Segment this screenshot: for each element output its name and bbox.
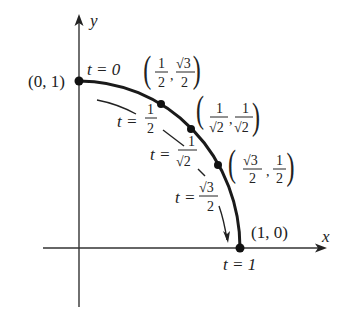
svg-text:t =: t = bbox=[150, 145, 170, 164]
svg-text:√3: √3 bbox=[243, 153, 258, 168]
svg-text:1: 1 bbox=[242, 101, 249, 116]
svg-text:,: , bbox=[170, 68, 174, 83]
point-t1 bbox=[236, 244, 245, 253]
svg-text:2: 2 bbox=[276, 171, 283, 186]
svg-text:√3: √3 bbox=[176, 56, 191, 71]
svg-text:√2: √2 bbox=[209, 120, 224, 135]
svg-text:√2: √2 bbox=[176, 154, 191, 169]
svg-text:,: , bbox=[266, 164, 270, 179]
svg-text:2: 2 bbox=[158, 75, 165, 90]
parametric-quarter-circle-diagram: y x (0, 1) t = 0 ( 1 2 , √3 2 ) ( 1 √2 ,… bbox=[0, 0, 356, 323]
svg-text:2: 2 bbox=[147, 121, 154, 136]
svg-text:t =: t = bbox=[175, 188, 195, 207]
svg-text:2: 2 bbox=[249, 171, 256, 186]
y-axis-label: y bbox=[88, 11, 98, 30]
x-axis-label: x bbox=[321, 227, 330, 246]
point-t-inv-sqrt2 bbox=[187, 125, 195, 133]
svg-text:(: ( bbox=[196, 89, 204, 131]
svg-text:1: 1 bbox=[158, 56, 165, 71]
svg-text:): ) bbox=[252, 95, 260, 137]
svg-text:2: 2 bbox=[207, 199, 214, 214]
point-label-inv-sqrt2: ( 1 √2 , 1 √2 ) bbox=[196, 89, 260, 137]
svg-text:(: ( bbox=[143, 49, 151, 91]
svg-text:t =: t = bbox=[117, 112, 137, 131]
point-label-0-1: (0, 1) bbox=[28, 72, 65, 91]
svg-text:2: 2 bbox=[181, 75, 188, 90]
point-label-half-sqrt3over2: ( 1 2 , √3 2 ) bbox=[143, 49, 201, 91]
t-label-inv-sqrt2: t = 1 √2 bbox=[150, 134, 197, 169]
point-label-1-0: (1, 0) bbox=[251, 223, 288, 242]
t-label-sqrt3-over-2: t = √3 2 bbox=[175, 180, 218, 214]
point-t0 bbox=[75, 77, 84, 86]
svg-text:1: 1 bbox=[188, 134, 195, 149]
point-label-sqrt3over2-half: ( √3 2 , 1 2 ) bbox=[228, 143, 294, 187]
direction-arc-segment bbox=[198, 169, 205, 176]
point-t-half bbox=[157, 100, 165, 108]
svg-text:1: 1 bbox=[216, 101, 223, 116]
svg-text:√2: √2 bbox=[234, 120, 249, 135]
direction-arc-segment bbox=[163, 130, 184, 146]
svg-text:1: 1 bbox=[147, 102, 154, 117]
svg-text:,: , bbox=[229, 112, 233, 127]
point-t-sqrt3-over-2 bbox=[214, 161, 222, 169]
svg-text:√3: √3 bbox=[199, 180, 214, 195]
svg-text:1: 1 bbox=[276, 153, 283, 168]
svg-text:(: ( bbox=[228, 143, 236, 185]
t-label-1: t = 1 bbox=[223, 255, 256, 274]
svg-text:): ) bbox=[193, 49, 201, 91]
svg-text:): ) bbox=[286, 145, 294, 187]
t-label-0: t = 0 bbox=[87, 60, 121, 79]
